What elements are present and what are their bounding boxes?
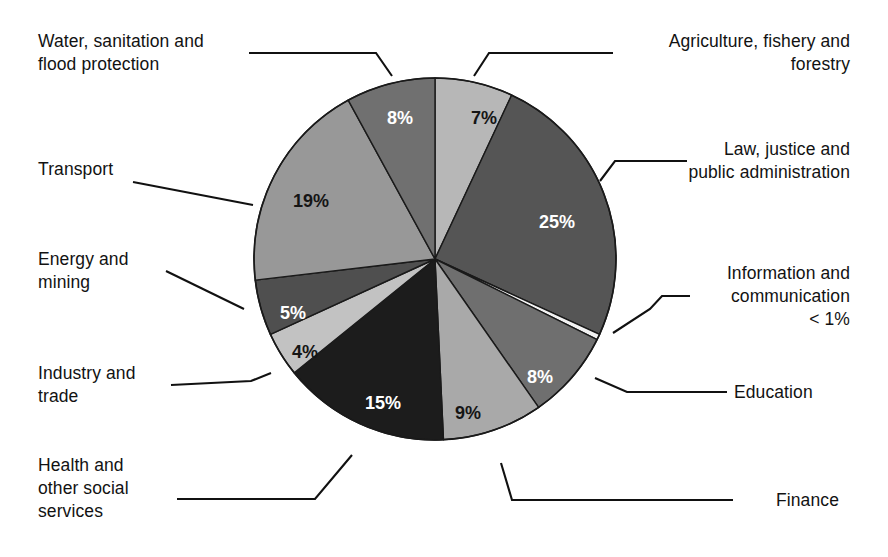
callout-label-health-and-other-social-services: Health and other social services	[38, 454, 198, 523]
callout-label-energy-and-mining: Energy and mining	[38, 248, 183, 294]
slice-value-water: 8%	[387, 108, 413, 128]
callout-label-agriculture-fishery-and-forestry: Agriculture, fishery and forestry	[614, 30, 850, 76]
callout-label-transport: Transport	[38, 158, 168, 181]
slice-value-transport: 19%	[293, 191, 329, 211]
leader-line-transport	[133, 182, 253, 205]
callout-label-law-justice-and-public-administration: Law, justice and public administration	[614, 138, 850, 184]
leader-line-health	[177, 455, 352, 499]
leader-line-agriculture	[474, 53, 613, 76]
slice-value-agriculture: 7%	[471, 108, 497, 128]
callout-label-industry-and-trade: Industry and trade	[38, 362, 183, 408]
leader-line-industry	[171, 373, 271, 385]
slice-value-law: 25%	[539, 212, 575, 232]
slice-value-health: 15%	[365, 393, 401, 413]
slice-value-finance: 9%	[455, 403, 481, 423]
leader-line-water	[249, 53, 392, 76]
callout-label-education: Education	[734, 381, 874, 404]
leader-line-finance	[501, 463, 733, 500]
slice-value-energy: 5%	[280, 303, 306, 323]
leader-line-education	[595, 378, 727, 392]
callout-label-finance: Finance	[776, 489, 886, 512]
callout-label-water-sanitation-and-flood-protection: Water, sanitation and flood protection	[38, 30, 253, 76]
slice-value-industry: 4%	[292, 342, 318, 362]
pie-slices	[254, 78, 616, 440]
slice-value-education: 8%	[527, 367, 553, 387]
callout-label-information-and-communication: Information and communication < 1%	[614, 262, 850, 331]
pie-chart-figure: 7% 25% 8% 9% 15% 4% 5% 19% 8% Water, san…	[0, 0, 888, 557]
